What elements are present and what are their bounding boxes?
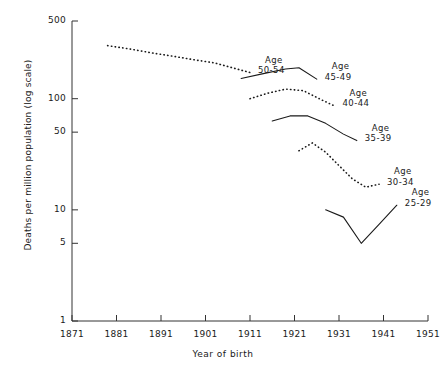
y-tick-label: 50 bbox=[28, 126, 66, 136]
y-tick-label: 10 bbox=[28, 204, 66, 214]
series-label-age-range: 35-39 bbox=[365, 133, 392, 144]
series-label: Age30-34 bbox=[387, 166, 414, 187]
series-label: Age50-54 bbox=[258, 55, 285, 76]
y-tick-label: 100 bbox=[28, 93, 66, 103]
series-line bbox=[299, 143, 379, 187]
series-label-age-word: Age bbox=[258, 55, 285, 66]
series-label-age-word: Age bbox=[325, 61, 352, 72]
series-line bbox=[272, 116, 357, 141]
series-label: Age25-29 bbox=[405, 187, 432, 208]
x-tick-label: 1901 bbox=[184, 329, 228, 339]
series-label-age-range: 40-44 bbox=[343, 98, 370, 109]
series-label-age-word: Age bbox=[343, 88, 370, 99]
series-line bbox=[326, 205, 397, 243]
axis-lines bbox=[72, 21, 428, 321]
series-label: Age40-44 bbox=[343, 88, 370, 109]
series-label-age-word: Age bbox=[405, 187, 432, 198]
y-tick-label: 5 bbox=[28, 237, 66, 247]
series-label-age-range: 50-54 bbox=[258, 65, 285, 76]
x-tick-label: 1941 bbox=[362, 329, 406, 339]
series-paths bbox=[108, 46, 397, 244]
series-line bbox=[250, 89, 335, 106]
plot-area bbox=[0, 0, 446, 372]
x-tick-label: 1921 bbox=[273, 329, 317, 339]
series-label-age-range: 45-49 bbox=[325, 72, 352, 83]
series-label-age-range: 25-29 bbox=[405, 198, 432, 209]
series-label: Age35-39 bbox=[365, 123, 392, 144]
x-tick-label: 1951 bbox=[406, 329, 446, 339]
series-label: Age45-49 bbox=[325, 61, 352, 82]
series-label-age-word: Age bbox=[387, 166, 414, 177]
cohort-mortality-chart: 151050100500 187118811891190119111921193… bbox=[0, 0, 446, 372]
x-tick-label: 1881 bbox=[95, 329, 139, 339]
x-tick-label: 1911 bbox=[228, 329, 272, 339]
y-tick-label: 1 bbox=[28, 315, 66, 325]
y-axis-title: Deaths per million population (log scale… bbox=[23, 50, 33, 260]
x-tick-label: 1891 bbox=[139, 329, 183, 339]
series-line bbox=[108, 46, 250, 73]
series-label-age-word: Age bbox=[365, 123, 392, 134]
y-tick-label: 500 bbox=[28, 15, 66, 25]
x-tick-label: 1931 bbox=[317, 329, 361, 339]
x-axis-title: Year of birth bbox=[0, 349, 446, 359]
tick-marks bbox=[72, 21, 428, 321]
x-tick-label: 1871 bbox=[50, 329, 94, 339]
series-label-age-range: 30-34 bbox=[387, 177, 414, 188]
